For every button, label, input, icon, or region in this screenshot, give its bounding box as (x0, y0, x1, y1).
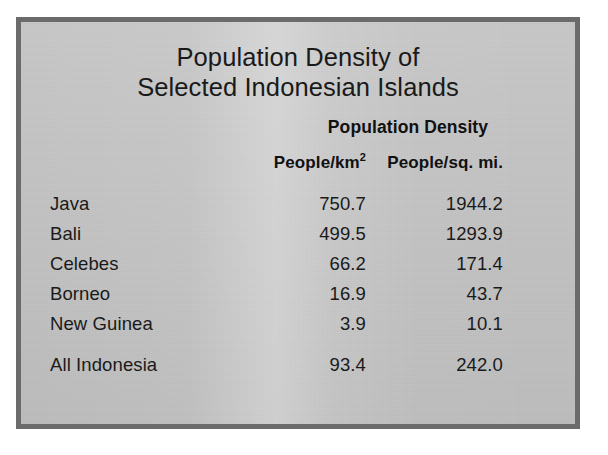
scanned-page: Population Density of Selected Indonesia… (0, 0, 608, 455)
cell-people-per-km2: 93.4 (241, 354, 366, 376)
row-label: Bali (21, 223, 241, 245)
row-label: All Indonesia (21, 354, 241, 376)
data-table: Population Density People/km2 People/sq.… (21, 117, 575, 384)
column-header-people-per-km2-text: People/km (274, 153, 360, 172)
table-panel-frame: Population Density of Selected Indonesia… (16, 17, 580, 429)
table-row: Java750.71944.2 (21, 193, 575, 223)
table-column-header-row: People/km2 People/sq. mi. (21, 153, 575, 193)
cell-people-per-km2: 16.9 (241, 283, 366, 305)
cell-people-per-km2: 3.9 (241, 313, 366, 335)
row-label: Celebes (21, 253, 241, 275)
cell-people-per-km2: 750.7 (241, 193, 366, 215)
table-row: New Guinea3.910.1 (21, 313, 575, 343)
row-label: Borneo (21, 283, 241, 305)
cell-people-per-sq-mi: 43.7 (366, 283, 539, 305)
cell-people-per-sq-mi: 1944.2 (366, 193, 539, 215)
figure-title: Population Density of Selected Indonesia… (21, 42, 575, 102)
figure-title-line-2: Selected Indonesian Islands (137, 73, 459, 101)
cell-people-per-sq-mi: 171.4 (366, 253, 539, 275)
cell-people-per-sq-mi: 1293.9 (366, 223, 539, 245)
cell-people-per-sq-mi: 242.0 (366, 354, 539, 376)
table-row: Borneo16.943.7 (21, 283, 575, 313)
cell-people-per-km2: 499.5 (241, 223, 366, 245)
cell-people-per-sq-mi: 10.1 (366, 313, 539, 335)
table-row: Celebes66.2171.4 (21, 253, 575, 283)
table-row: Bali499.51293.9 (21, 223, 575, 253)
figure-title-line-1: Population Density of (176, 43, 419, 71)
column-group-header: Population Density (241, 117, 575, 138)
row-label: Java (21, 193, 241, 215)
table-content: Population Density of Selected Indonesia… (21, 22, 575, 424)
column-header-people-per-km2: People/km2 (241, 153, 366, 173)
table-group-header-row: Population Density (21, 117, 575, 153)
cell-people-per-km2: 66.2 (241, 253, 366, 275)
row-label: New Guinea (21, 313, 241, 335)
column-header-people-per-sq-mi: People/sq. mi. (366, 153, 539, 173)
table-body: Java750.71944.2Bali499.51293.9Celebes66.… (21, 193, 575, 384)
table-row: All Indonesia93.4242.0 (21, 354, 575, 384)
